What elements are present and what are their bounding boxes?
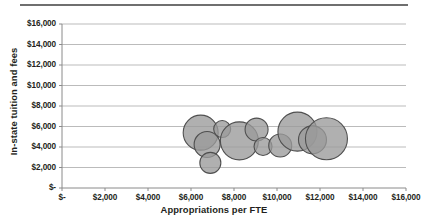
bubble-series bbox=[183, 112, 347, 173]
x-axis-title: Appropriations per FTE bbox=[0, 204, 428, 215]
y-axis-title: In-state tuition and fees bbox=[8, 37, 19, 167]
bubble-chart: $-$2,000$4,000$6,000$8,000$10,000$12,000… bbox=[0, 0, 428, 224]
x-tick-label: $16,000 bbox=[379, 193, 428, 202]
bubble-marker bbox=[200, 152, 221, 173]
y-tick-label: $16,000 bbox=[10, 19, 56, 28]
bubble-marker bbox=[305, 118, 347, 160]
y-tick-label: $- bbox=[10, 183, 56, 192]
plot-area bbox=[0, 0, 428, 224]
tick-marks bbox=[59, 24, 406, 191]
